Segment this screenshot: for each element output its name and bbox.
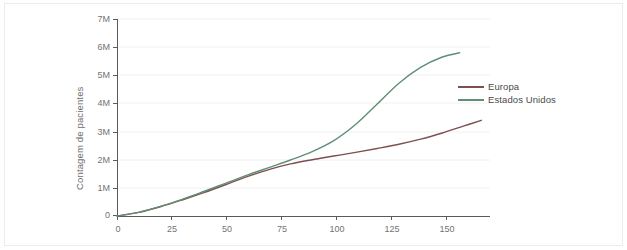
series-line-europa	[117, 120, 481, 216]
y-tick-label-1m: 1M	[84, 183, 110, 193]
legend-label-europa: Europa	[488, 81, 519, 92]
legend-label-estados-unidos: Estados Unidos	[488, 94, 556, 105]
y-tick-label-3m: 3M	[84, 127, 110, 137]
x-tick-label-100: 100	[322, 224, 352, 234]
legend-swatch-europa	[458, 86, 484, 88]
x-tick-label-150: 150	[432, 224, 462, 234]
x-tick-label-50: 50	[212, 224, 242, 234]
y-tick-label-5m: 5M	[84, 70, 110, 80]
y-tick-label-6m: 6M	[84, 42, 110, 52]
y-tick-label-2m: 2M	[84, 155, 110, 165]
x-tick-label-125: 125	[377, 224, 407, 234]
y-tick-label-7m: 7M	[84, 14, 110, 24]
legend-swatch-estados-unidos	[458, 99, 484, 101]
legend-item-estados-unidos[interactable]: Estados Unidos	[458, 93, 578, 106]
y-axis-ticks	[113, 20, 117, 216]
x-tick-label-75: 75	[267, 224, 297, 234]
series-line-estados-unidos	[117, 53, 460, 216]
y-tick-label-0: 0	[84, 210, 110, 220]
y-tick-label-4m: 4M	[84, 98, 110, 108]
chart-legend: Europa Estados Unidos	[458, 80, 578, 106]
legend-item-europa[interactable]: Europa	[458, 80, 578, 93]
gridlines	[117, 19, 490, 188]
chart-screenshot: Contagem de pacientes 7M 6M 5M 4M 3M 2M …	[0, 0, 627, 250]
line-chart: Contagem de pacientes 7M 6M 5M 4M 3M 2M …	[0, 0, 627, 250]
x-tick-label-25: 25	[157, 224, 187, 234]
x-tick-label-0: 0	[103, 224, 133, 234]
